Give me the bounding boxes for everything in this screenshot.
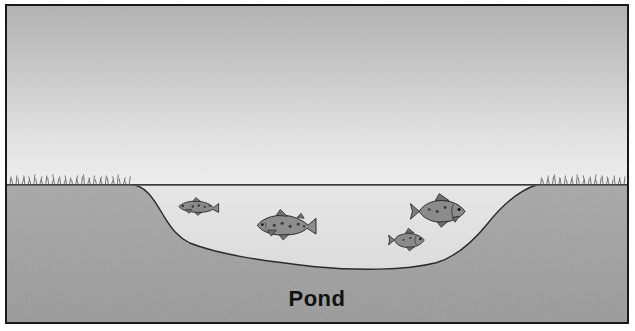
illustration-frame: Pond [5,4,629,324]
sky-region [7,6,627,186]
pond-cross-section-artwork [7,6,627,322]
illustration-canvas: Pond [0,0,635,331]
